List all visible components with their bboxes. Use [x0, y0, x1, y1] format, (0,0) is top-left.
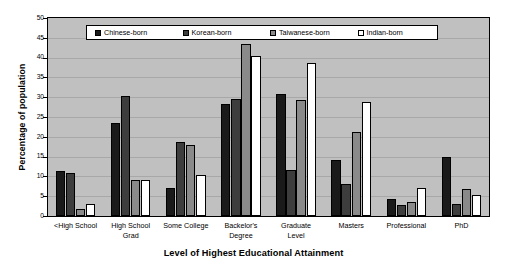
bar	[462, 189, 471, 216]
y-tick-label: 0	[20, 213, 44, 220]
bar-group	[331, 18, 371, 216]
x-tick-label-line: PhD	[426, 221, 497, 231]
legend-label: Indian-born	[367, 28, 403, 37]
bar	[131, 180, 140, 216]
legend-label: Korean-born	[192, 28, 232, 37]
bar	[307, 63, 316, 216]
y-tick-mark	[43, 58, 47, 59]
bar	[442, 157, 451, 216]
bar	[166, 188, 175, 216]
y-tick-mark	[43, 97, 47, 98]
bar	[362, 102, 371, 216]
bar	[196, 175, 205, 216]
y-tick-label: 50	[20, 15, 44, 22]
bar	[251, 56, 260, 216]
bar	[186, 145, 195, 216]
bar	[407, 202, 416, 216]
y-tick-label: 30	[20, 94, 44, 101]
bar	[397, 205, 406, 216]
y-tick-label: 40	[20, 54, 44, 61]
bar	[111, 123, 120, 216]
bar	[387, 199, 396, 216]
bar-group	[111, 18, 151, 216]
y-tick-label: 35	[20, 74, 44, 81]
y-tick-label: 20	[20, 134, 44, 141]
bar-group	[442, 18, 482, 216]
bar	[276, 94, 285, 216]
legend-label: Taiwanese-born	[279, 28, 330, 37]
bar	[76, 209, 85, 216]
bar-group	[276, 18, 316, 216]
y-tick-mark	[43, 137, 47, 138]
bar	[472, 195, 481, 216]
bars-layer	[48, 18, 489, 216]
bar-group	[166, 18, 206, 216]
y-tick-mark	[43, 77, 47, 78]
legend-swatch-icon	[358, 30, 364, 36]
legend-item: Taiwanese-born	[262, 28, 350, 37]
y-tick-mark	[43, 176, 47, 177]
y-tick-mark	[43, 157, 47, 158]
legend-item: Indian-born	[350, 28, 438, 37]
y-tick-label: 5	[20, 193, 44, 200]
x-tick-label: PhD	[426, 221, 497, 231]
bar	[352, 132, 361, 216]
legend: Chinese-bornKorean-bornTaiwanese-bornInd…	[86, 25, 438, 40]
bar	[452, 204, 461, 216]
bar	[331, 160, 340, 216]
y-tick-mark	[43, 196, 47, 197]
bar	[121, 96, 130, 216]
y-tick-mark	[43, 117, 47, 118]
bar	[66, 173, 75, 216]
x-axis-title: Level of Highest Educational Attainment	[0, 248, 507, 258]
legend-swatch-icon	[95, 30, 101, 36]
x-tick-label-line: Level	[261, 231, 332, 241]
x-tick-label-line: Grad	[95, 231, 166, 241]
bar	[141, 180, 150, 216]
legend-swatch-icon	[183, 30, 189, 36]
y-tick-label: 25	[20, 114, 44, 121]
legend-label: Chinese-born	[104, 28, 147, 37]
gridline	[48, 216, 489, 217]
legend-item: Chinese-born	[87, 28, 175, 37]
x-axis-ticks: <High SchoolHigh SchoolGradSome CollegeB…	[48, 221, 489, 249]
bar	[176, 142, 185, 216]
legend-item: Korean-born	[175, 28, 263, 37]
bar-chart: Percentage of population 051015202530354…	[0, 0, 507, 265]
y-tick-mark	[43, 38, 47, 39]
y-tick-label: 15	[20, 153, 44, 160]
bar-group	[56, 18, 96, 216]
legend-swatch-icon	[270, 30, 276, 36]
bar	[341, 184, 350, 216]
y-tick-mark	[43, 18, 47, 19]
bar-group	[387, 18, 427, 216]
bar	[221, 104, 230, 216]
bar	[286, 170, 295, 216]
y-tick-label: 45	[20, 35, 44, 42]
bar	[86, 204, 95, 216]
bar	[241, 44, 250, 216]
bar	[417, 188, 426, 216]
bar	[296, 100, 305, 216]
bar	[231, 99, 240, 216]
y-tick-label: 10	[20, 173, 44, 180]
y-tick-mark	[43, 216, 47, 217]
bar	[56, 171, 65, 216]
bar-group	[221, 18, 261, 216]
